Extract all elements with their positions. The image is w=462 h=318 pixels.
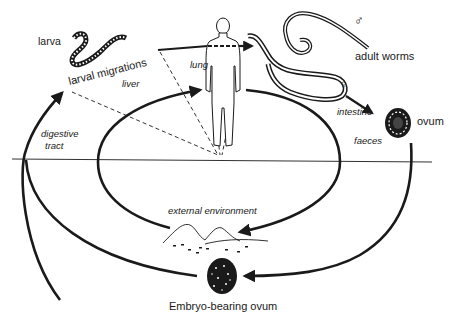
label-liver: liver	[122, 79, 139, 89]
label-faeces: faeces	[354, 136, 382, 146]
adult-worms-icon	[248, 13, 372, 113]
embryo-ovum-icon	[207, 258, 237, 294]
label-larva: larva	[38, 36, 61, 47]
label-embryo-bearing-ovum: Embryo-bearing ovum	[169, 301, 277, 312]
label-tract: tract	[45, 141, 63, 151]
larva-worm-icon	[72, 34, 126, 65]
label-external-environment: external environment	[168, 206, 257, 216]
label-digestive: digestive	[41, 129, 79, 139]
ovum-icon	[385, 108, 411, 138]
label-intestine: intestine	[337, 107, 372, 117]
label-lung: lung	[190, 60, 208, 70]
label-adult-worms: adult worms	[355, 51, 414, 62]
label-male-symbol: ♂	[354, 14, 364, 27]
outer-cycle-bottom-left	[26, 160, 197, 276]
outer-cycle-right-arrow	[245, 143, 411, 276]
label-female-symbol: ♀	[339, 78, 349, 91]
horizon-line	[12, 159, 432, 162]
human-figure-icon	[206, 18, 240, 146]
outer-cycle-left-arrow	[23, 93, 62, 300]
label-ovum: ovum	[417, 116, 444, 127]
life-cycle-diagram	[0, 0, 462, 318]
larval-migration-line	[158, 46, 208, 50]
